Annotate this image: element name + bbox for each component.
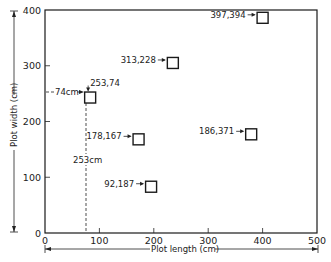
- square-marker-icon: [146, 181, 157, 192]
- y-tick-label: 200: [23, 116, 41, 127]
- data-point: 397,394: [210, 10, 268, 24]
- point-label: 186,371: [199, 126, 234, 136]
- x-axis-title: Plot length (cm): [151, 244, 219, 254]
- scatter-chart: 0100200300400500 0100200300400 Plot widt…: [0, 0, 331, 262]
- point-label: 313,228: [121, 55, 156, 65]
- annotation-74cm-label: 74cm: [55, 87, 79, 97]
- annotation-253cm-label: 253cm: [73, 155, 102, 165]
- y-tick-label: 300: [23, 60, 41, 71]
- x-tick-label: 0: [42, 235, 48, 246]
- x-tick-label: 400: [254, 235, 272, 246]
- data-point: 313,228: [121, 55, 179, 69]
- x-tick-label: 500: [308, 235, 326, 246]
- y-tick-label: 400: [23, 5, 41, 16]
- y-tick-label: 0: [35, 228, 41, 239]
- annotation-253cm: 253cm: [73, 98, 102, 233]
- data-point: 186,371: [199, 126, 257, 140]
- square-marker-icon: [257, 12, 268, 23]
- y-axis-title: Plot width (cm): [9, 83, 19, 147]
- square-marker-icon: [167, 57, 178, 68]
- data-points: 397,394313,228253,74178,167186,37192,187: [85, 10, 268, 192]
- point-label: 178,167: [86, 131, 121, 141]
- square-marker-icon: [133, 134, 144, 145]
- point-label: 92,187: [104, 179, 134, 189]
- data-point: 253,74: [85, 78, 120, 104]
- data-point: 178,167: [86, 131, 144, 145]
- annotation-74cm: 74cm: [46, 86, 84, 97]
- x-axis-title-group: Plot length (cm): [45, 244, 318, 254]
- data-point: 92,187: [104, 179, 156, 193]
- square-marker-icon: [85, 92, 96, 103]
- x-tick-label: 100: [90, 235, 108, 246]
- point-label: 397,394: [210, 10, 245, 20]
- point-label: 253,74: [90, 78, 120, 88]
- y-axis-ticks: 0100200300400: [23, 5, 50, 239]
- y-tick-label: 100: [23, 172, 41, 183]
- y-axis-title-group: Plot width (cm): [9, 11, 19, 232]
- square-marker-icon: [246, 129, 257, 140]
